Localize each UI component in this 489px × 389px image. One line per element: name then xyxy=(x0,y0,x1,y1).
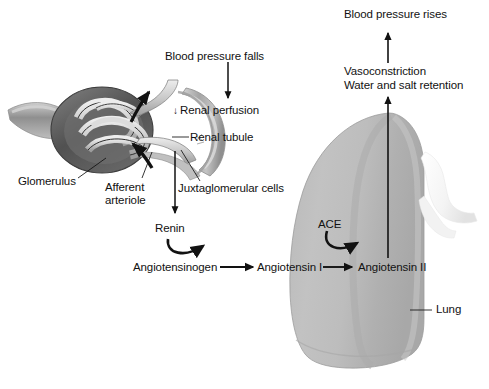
label-ace: ACE xyxy=(318,218,341,231)
label-renal-perfusion: Renal perfusion xyxy=(180,104,259,117)
label-vasoconstriction: Vasoconstriction xyxy=(344,64,426,78)
label-renin: Renin xyxy=(155,222,185,235)
label-juxtaglomerular-cells: Juxtaglomerular cells xyxy=(178,182,284,195)
down-arrow-icon: ↓ xyxy=(173,104,178,117)
label-glomerulus: Glomerulus xyxy=(18,175,76,188)
label-angiotensin-i: Angiotensin I xyxy=(257,261,322,274)
label-blood-pressure-falls: Blood pressure falls xyxy=(165,50,264,63)
arrow-renin-catalysis xyxy=(168,239,203,253)
label-lung: Lung xyxy=(436,303,461,316)
lung-illustration xyxy=(290,113,477,368)
label-afferent-arteriole-line1: Afferent xyxy=(105,180,144,194)
label-water-and-salt-retention: Water and salt retention xyxy=(344,78,463,92)
label-renal-tubule: Renal tubule xyxy=(190,131,253,144)
glomerulus-illustration xyxy=(8,80,225,180)
label-angiotensinogen: Angiotensinogen xyxy=(133,261,217,274)
label-angiotensin-ii: Angiotensin II xyxy=(358,261,426,274)
label-afferent-arteriole-line2: arteriole xyxy=(105,193,146,207)
label-blood-pressure-rises: Blood pressure rises xyxy=(344,8,447,21)
renin-angiotensin-diagram: Blood pressure falls ↓ Renal perfusion R… xyxy=(0,0,489,389)
